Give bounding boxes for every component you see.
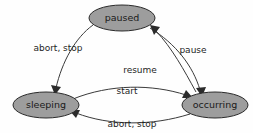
state-label-sleeping: sleeping bbox=[26, 99, 66, 110]
state-label-paused: paused bbox=[105, 12, 140, 23]
state-node-occurring[interactable]: occurring bbox=[182, 92, 248, 118]
transition-occurring-to-paused[interactable]: resume bbox=[123, 25, 196, 92]
transition-sleeping-to-occurring[interactable]: start bbox=[73, 86, 193, 100]
transition-occurring-to-sleeping[interactable]: abort, stop bbox=[69, 110, 190, 129]
transition-label-abort-stop-top: abort, stop bbox=[33, 43, 82, 53]
edge-line-paused-to-sleeping bbox=[56, 25, 93, 88]
transition-paused-to-occurring[interactable]: pause bbox=[150, 28, 207, 97]
edge-line-paused-to-occurring bbox=[150, 28, 200, 90]
transition-label-pause: pause bbox=[179, 45, 207, 55]
state-node-paused[interactable]: paused bbox=[89, 5, 155, 31]
state-diagram: abort, stop pause resume start abort, st… bbox=[0, 0, 253, 133]
transition-label-resume: resume bbox=[123, 65, 157, 75]
transition-label-abort-stop-bottom: abort, stop bbox=[107, 119, 156, 129]
state-label-occurring: occurring bbox=[193, 99, 238, 110]
edge-line-occurring-to-paused bbox=[156, 31, 196, 92]
transition-paused-to-sleeping[interactable]: abort, stop bbox=[33, 25, 93, 95]
transition-label-start: start bbox=[117, 86, 138, 96]
state-node-sleeping[interactable]: sleeping bbox=[13, 92, 79, 118]
state-diagram-canvas: abort, stop pause resume start abort, st… bbox=[0, 0, 253, 133]
